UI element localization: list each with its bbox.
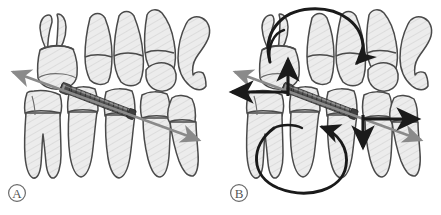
panel-a-label-text: A	[12, 186, 22, 201]
figure-canvas: A B	[0, 0, 441, 215]
dental-force-diagram: A B	[0, 0, 441, 215]
panel-b-label-text: B	[235, 186, 244, 201]
